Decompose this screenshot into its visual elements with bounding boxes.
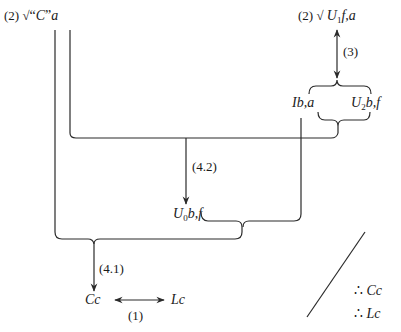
- line-ib-down: [243, 118, 301, 227]
- node-u0-b-f: U0b,f: [173, 207, 202, 223]
- node-cc: Cc: [85, 293, 101, 307]
- node-lc: Lc: [171, 293, 185, 307]
- therefore-icon: ∴: [354, 283, 363, 298]
- conclusion-lc: ∴ Lc: [354, 307, 381, 321]
- node-root-c: (2) √“C”a: [4, 9, 58, 23]
- brace-top: [309, 80, 371, 94]
- edge-label-3: (3): [343, 45, 358, 58]
- therefore-icon: ∴: [354, 306, 363, 321]
- node-root-u1: (2) √ U1f,a: [298, 9, 356, 25]
- line-a-to-upper-join: [70, 30, 338, 138]
- brace-under-ib-u2: [318, 112, 370, 133]
- node-u2-b-f: U2b,f: [351, 96, 380, 112]
- conclusion-cc: ∴ Cc: [354, 284, 382, 298]
- edge-label-4-1: (4.1): [99, 262, 124, 275]
- node-ib-a: Ib,a: [292, 96, 314, 110]
- line-c-to-bottom-brace: [55, 30, 94, 244]
- diagonal-divider: [307, 232, 365, 317]
- edge-label-1: (1): [128, 309, 143, 322]
- edge-label-4-2: (4.2): [192, 160, 217, 173]
- brace-under-u0: [94, 212, 242, 244]
